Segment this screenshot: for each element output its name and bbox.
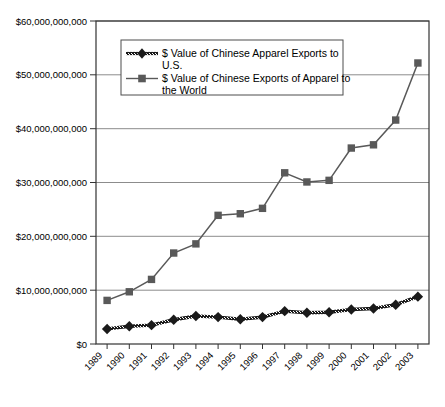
data-point-world xyxy=(170,249,177,256)
x-tick-label: 1993 xyxy=(171,350,194,373)
data-point-world xyxy=(281,169,288,176)
line-chart: $60,000,000,000 $50,000,000,000 $40,000,… xyxy=(0,0,445,407)
data-point-world xyxy=(259,205,266,212)
legend-label-world-line1: $ Value of Chinese Exports of Apparel to xyxy=(162,72,350,84)
x-tick-label: 2000 xyxy=(326,350,349,373)
data-point-world xyxy=(392,116,399,123)
y-axis-labels: $60,000,000,000 $50,000,000,000 $40,000,… xyxy=(16,16,87,350)
y-tick-label: $20,000,000,000 xyxy=(16,231,87,242)
data-point-world xyxy=(303,178,310,185)
y-tick-label: $50,000,000,000 xyxy=(16,69,87,80)
x-tick-label: 2003 xyxy=(393,350,416,373)
data-point-world xyxy=(214,212,221,219)
data-point-world xyxy=(126,288,133,295)
x-tick-label: 2002 xyxy=(370,350,393,373)
x-tick-label: 1989 xyxy=(82,350,105,373)
y-tick-label: $60,000,000,000 xyxy=(16,16,87,27)
x-tick-label: 1992 xyxy=(148,350,171,373)
legend-label-us-line1: $ Value of Chinese Apparel Exports to xyxy=(162,47,339,59)
data-point-world xyxy=(148,276,155,283)
data-point-world xyxy=(192,240,199,247)
chart-legend: $ Value of Chinese Apparel Exports to U.… xyxy=(121,40,350,96)
data-point-world xyxy=(370,141,377,148)
x-tick-label: 1998 xyxy=(282,350,305,373)
data-point-world xyxy=(414,59,421,66)
y-tick-label: $10,000,000,000 xyxy=(16,285,87,296)
x-tick-label: 1996 xyxy=(237,350,260,373)
x-tick-label: 1995 xyxy=(215,350,238,373)
data-point-world xyxy=(103,297,110,304)
legend-marker-square-icon xyxy=(138,75,146,83)
data-point-world xyxy=(348,144,355,151)
y-tick-label: $0 xyxy=(76,339,87,350)
y-tick-label: $40,000,000,000 xyxy=(16,123,87,134)
x-tick-label: 2001 xyxy=(348,350,371,373)
legend-label-world-line2: the World xyxy=(162,84,207,96)
x-axis-labels: 1989199019911992199319941995199619971998… xyxy=(82,344,418,372)
x-tick-label: 1991 xyxy=(126,350,149,373)
legend-label-us-line2: U.S. xyxy=(162,59,182,71)
y-axis-ticks xyxy=(90,21,96,344)
x-tick-label: 1999 xyxy=(304,350,327,373)
data-point-world xyxy=(237,210,244,217)
x-tick-label: 1990 xyxy=(104,350,127,373)
data-point-world xyxy=(325,177,332,184)
x-tick-label: 1994 xyxy=(193,350,216,373)
y-tick-label: $30,000,000,000 xyxy=(16,177,87,188)
chart-container: $60,000,000,000 $50,000,000,000 $40,000,… xyxy=(0,0,445,407)
x-tick-label: 1997 xyxy=(259,350,282,373)
